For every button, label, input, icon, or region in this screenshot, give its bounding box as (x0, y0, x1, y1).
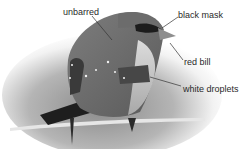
label-white-droplets: white droplets (183, 84, 239, 94)
bird-photo (0, 0, 239, 149)
label-black-mask: black mask (178, 10, 223, 20)
label-red-bill: red bill (184, 57, 211, 67)
annotated-bird-figure: unbarred black mask red bill white dropl… (0, 0, 239, 149)
label-unbarred: unbarred (63, 7, 99, 17)
